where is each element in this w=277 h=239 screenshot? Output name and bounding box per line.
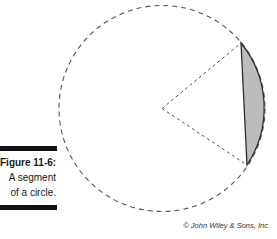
- radius-line-upper: [162, 43, 241, 109]
- caption-line-1: A segment: [0, 170, 56, 185]
- shaded-segment: [241, 43, 264, 165]
- caption-bottom-bar: [0, 205, 57, 210]
- caption-line-2: of a circle.: [0, 185, 56, 200]
- caption-text: Figure 11-6: A segment of a circle.: [0, 151, 57, 205]
- radius-line-lower: [162, 109, 247, 166]
- copyright-credit: © John Wiley & Sons, Inc.: [183, 221, 270, 230]
- figure-number-label: Figure 11-6:: [0, 155, 56, 170]
- figure-container: Figure 11-6: A segment of a circle. © Jo…: [0, 0, 277, 239]
- figure-caption: Figure 11-6: A segment of a circle.: [0, 146, 57, 210]
